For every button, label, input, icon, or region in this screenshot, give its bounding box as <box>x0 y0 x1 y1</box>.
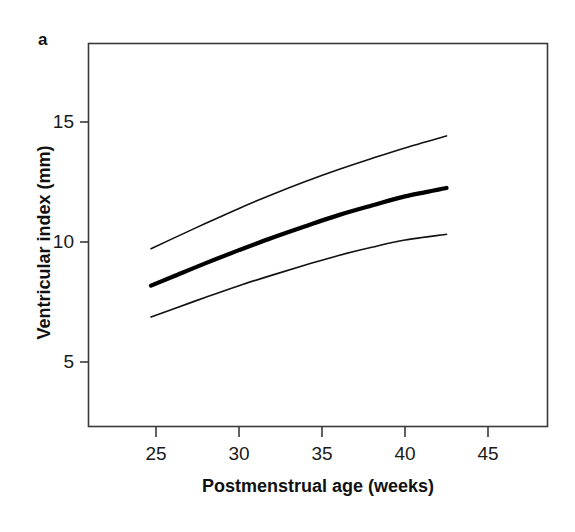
x-axis-title: Postmenstrual age (weeks) <box>88 476 548 497</box>
x-tick-label-45: 45 <box>463 443 513 465</box>
plot-frame <box>89 44 548 427</box>
x-tick-label-35: 35 <box>297 443 347 465</box>
x-tick-label-25: 25 <box>131 443 181 465</box>
y-axis-ticks <box>80 122 89 362</box>
y-axis-title: Ventricular index (mm) <box>34 113 55 373</box>
x-tick-label-30: 30 <box>214 443 264 465</box>
figure-panel-a: a 5 10 15 25 30 35 40 45 Ve <box>0 0 575 532</box>
x-axis-ticks <box>156 427 488 437</box>
x-tick-label-40: 40 <box>380 443 430 465</box>
